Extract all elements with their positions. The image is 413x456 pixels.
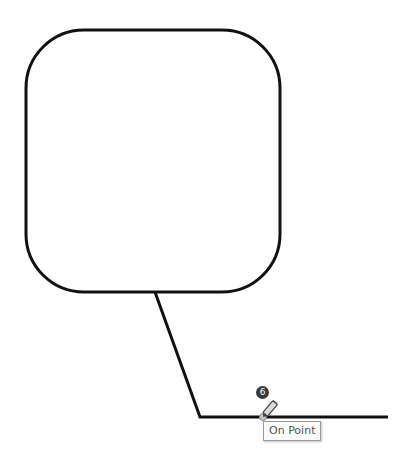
snap-tooltip: On Point — [263, 421, 321, 441]
step-number-badge: 6 — [256, 386, 269, 399]
rounded-rectangle-shape[interactable] — [26, 30, 280, 292]
connector-polyline[interactable] — [155, 292, 388, 417]
drawing-canvas[interactable] — [0, 0, 413, 456]
